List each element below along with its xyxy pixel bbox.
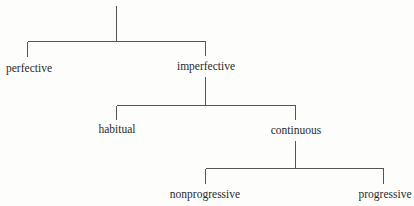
node-continuous: continuous [271, 125, 321, 137]
aspect-tree-diagram: perfective imperfective habitual continu… [0, 0, 414, 206]
node-imperfective: imperfective [177, 61, 235, 73]
node-habitual: habitual [98, 124, 135, 136]
node-nonprogressive: nonprogressive [170, 189, 240, 201]
node-progressive: progressive [358, 189, 411, 201]
node-perfective: perfective [6, 63, 52, 75]
tree-connector-lines [0, 0, 414, 206]
